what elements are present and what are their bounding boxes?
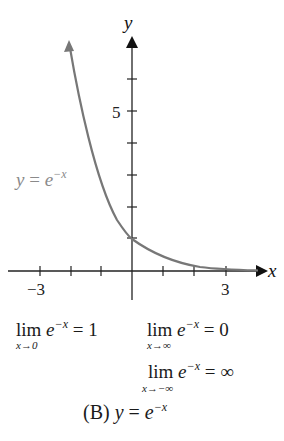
lim-subscript: x→−∞ [142,383,173,394]
lim-rhs: = ∞ [200,361,234,382]
caption-eq: = [124,401,145,423]
y-axis-arrow-icon [126,36,138,48]
caption-prefix: (B) [83,401,115,423]
lim-exp: −x [187,359,200,373]
lim-base: e [178,361,186,382]
lim-subscript: x→∞ [147,340,171,351]
lim-exp: −x [186,317,199,331]
caption-y: y [115,401,124,423]
lim-word: lim [148,361,173,382]
lim-rhs: = 0 [199,319,229,340]
tick-label-neg3: −3 [27,280,45,299]
tick-label-5: 5 [112,103,121,122]
lim-base: e [46,319,54,340]
curve-label: y = e−x [14,167,67,190]
limit-x-to-infinity: lim e−x = 0 x→∞ [147,318,229,339]
graph: y x 5 −3 3 y = e−x [0,0,284,441]
limit-x-to-neg-infinity: lim e−x = ∞ x→−∞ [148,360,234,381]
limit-x-to-0: lim e−x = 1 x→0 [16,318,98,339]
curve-arrow-icon [64,40,74,52]
tick-label-3: 3 [221,280,230,299]
curve-exp-neg-x [70,48,258,271]
lim-rhs: = 1 [68,319,98,340]
caption-e: e [145,401,154,423]
lim-exp: −x [55,317,68,331]
lim-word: lim [147,319,172,340]
lim-word: lim [16,319,41,340]
lim-base: e [177,319,185,340]
figure-caption: (B) y = e−x [83,400,167,424]
x-axis-label: x [267,260,277,281]
caption-exp: −x [154,400,167,414]
y-axis-label: y [122,12,133,33]
lim-subscript: x→0 [16,340,37,351]
